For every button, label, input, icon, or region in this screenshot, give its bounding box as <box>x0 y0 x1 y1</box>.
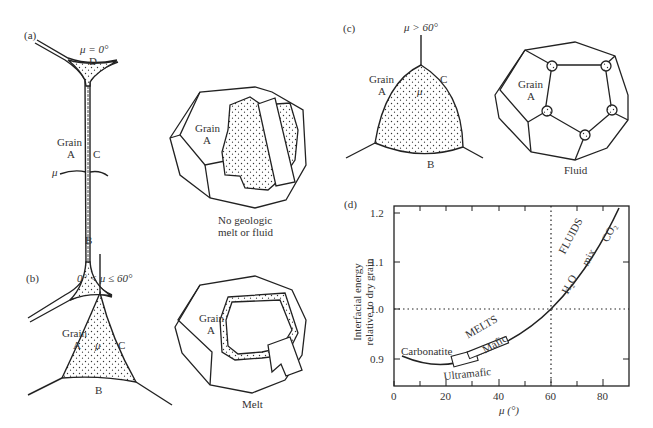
panel-a-mu: μ <box>52 166 58 178</box>
panel-b-grain-label: Grain <box>62 327 87 339</box>
panel-b-grain-c: C <box>118 339 125 351</box>
plot-frame <box>394 206 629 386</box>
panel-a-pocket-top-d: D <box>89 55 97 67</box>
panel-a-grain-a: A <box>67 148 75 160</box>
panel-c-pocket-bottom-b: B <box>427 158 434 170</box>
panel-a-caption-line2: melt or fluid <box>218 226 273 238</box>
y-tick-1.2: 1.2 <box>370 207 384 219</box>
panel-a-pocket-bottom-b: B <box>85 234 92 246</box>
panel-b-grain-a: A <box>73 339 81 351</box>
figure-drawing <box>0 0 653 428</box>
x-tick-0: 0 <box>391 390 397 402</box>
panel-b-angle: 0° < μ ≤ 60° <box>77 272 132 284</box>
panel-c-3d-grain: Grain <box>518 78 543 90</box>
panel-b-3d-grain: Grain <box>199 312 224 324</box>
x-tick-80: 80 <box>597 390 608 402</box>
panel-a-grain-3d <box>170 87 306 208</box>
panel-a-label: (a) <box>24 29 36 41</box>
panel-a-grain-label: Grain <box>57 136 82 148</box>
panel-a-3d-grain: Grain <box>195 122 220 134</box>
panel-c-grain-label: Grain <box>369 73 394 85</box>
panel-c-pore-diagram <box>346 35 483 158</box>
annotation-carbonatite: Carbonatite <box>401 345 452 357</box>
panel-c-3d-grain-a: A <box>527 90 535 102</box>
panel-c-grain-3d <box>495 42 628 160</box>
panel-d-chart <box>394 206 629 386</box>
panel-c-grain-a: A <box>378 85 386 97</box>
y-axis-label-line2: relative to dry grain <box>363 227 375 377</box>
y-axis-label: Interfacial energy relative to dry grain <box>351 227 375 377</box>
x-tick-40: 40 <box>493 390 504 402</box>
panel-a-angle: μ = 0° <box>80 43 108 55</box>
x-axis-label: μ (°) <box>499 404 519 416</box>
panel-a-caption-line1: No geologic <box>218 214 272 226</box>
panel-a-3d-grain-a: A <box>203 134 211 146</box>
y-axis-label-line1: Interfacial energy <box>351 227 363 377</box>
panel-c-angle: μ > 60° <box>404 21 438 33</box>
panel-b-grain-3d <box>175 276 306 393</box>
panel-c-caption: Fluid <box>564 164 587 176</box>
panel-b-3d-grain-a: A <box>207 324 215 336</box>
panel-b-mu: μ <box>95 339 101 351</box>
x-tick-60: 60 <box>545 390 556 402</box>
panel-b-caption: Melt <box>242 398 263 410</box>
panel-c-grain-c: C <box>440 73 447 85</box>
panel-b-pocket-bottom-b: B <box>95 384 102 396</box>
panel-c-mu: μ <box>417 85 423 97</box>
y-ticks <box>394 213 629 359</box>
x-tick-20: 20 <box>440 390 451 402</box>
panel-a-grain-c: C <box>93 148 100 160</box>
panel-b-label: (b) <box>26 272 39 284</box>
panel-c-label: (c) <box>343 22 355 34</box>
energy-curve <box>402 208 619 365</box>
panel-d-label: (d) <box>344 198 357 210</box>
